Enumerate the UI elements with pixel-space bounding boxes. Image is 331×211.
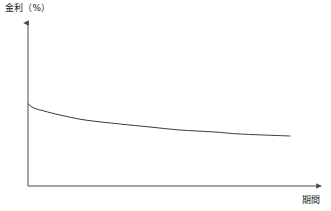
y-axis-label: 金利（%）	[5, 3, 51, 14]
chart-canvas	[0, 0, 331, 211]
x-axis-label: 期間	[302, 195, 320, 206]
interest-rate-curve	[28, 104, 290, 136]
interest-rate-curve-chart: 金利（%） 期間	[0, 0, 331, 211]
